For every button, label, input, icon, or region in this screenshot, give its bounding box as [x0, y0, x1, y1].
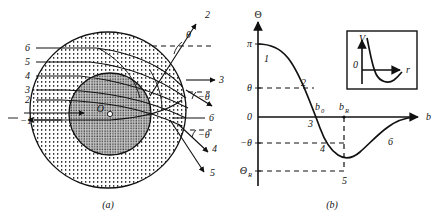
label-angle-minus-theta-upper: −θ — [198, 91, 210, 102]
annotation-bR: b R — [339, 101, 349, 114]
panel-a-caption: (a) — [102, 199, 114, 211]
label-outgoing-4: 4 — [212, 143, 217, 154]
y-tick-theta-R-group: Θ R — [240, 165, 252, 178]
y-tick-theta: θ — [247, 82, 252, 93]
curve-point-label-5: 5 — [342, 175, 347, 186]
y-tick-minus-theta: −θ — [240, 137, 252, 148]
panel-b-deflection-plot: Θ b π θ 0 −θ Θ R b 0 — [222, 0, 445, 219]
label-incoming-2: 2 — [25, 94, 30, 105]
label-incoming-6: 6 — [25, 42, 30, 53]
label-outgoing-5: 5 — [210, 167, 215, 178]
y-tick-pi: π — [247, 38, 253, 49]
scattering-figure: O 6 5 4 3 2 −1 — [0, 0, 445, 219]
label-b0: b — [315, 101, 320, 112]
label-bR: b — [339, 101, 344, 112]
curve-point-label-4: 4 — [320, 143, 325, 154]
curve-point-label-3: 3 — [307, 118, 313, 129]
annotation-b0: b 0 — [315, 101, 325, 114]
angle-arc-minus-theta-lower — [192, 130, 196, 137]
panel-b-svg: Θ b π θ 0 −θ Θ R b 0 — [222, 0, 445, 219]
center-point-marker — [107, 111, 112, 116]
inset-x-axis-title: r — [406, 64, 410, 75]
panel-a-svg: O 6 5 4 3 2 −1 — [0, 0, 222, 219]
x-axis-title: b — [426, 111, 431, 122]
center-label-O: O — [97, 103, 104, 114]
label-angle-minus-theta-lower: −θ — [198, 129, 210, 140]
panel-a-trajectories: O 6 5 4 3 2 −1 — [0, 0, 222, 219]
y-tick-theta-R: Θ — [240, 165, 247, 176]
curve-point-label-6: 6 — [388, 136, 393, 147]
y-axis-title: Θ — [254, 9, 261, 20]
curve-point-label-1: 1 — [264, 53, 269, 64]
y-tick-zero: 0 — [247, 111, 252, 122]
label-angle-theta: θ — [186, 29, 191, 40]
label-b0-subscript: 0 — [321, 107, 325, 114]
panel-b-caption: (b) — [326, 199, 338, 211]
point-marker-bR — [342, 115, 345, 118]
curve-point-label-2: 2 — [301, 77, 306, 88]
inset-origin-label: 0 — [353, 59, 358, 70]
label-outgoing-6: 6 — [209, 112, 214, 123]
label-outgoing-2: 2 — [205, 9, 210, 20]
potential-inset: V r 0 — [347, 31, 417, 89]
label-incoming-minus-1: −1 — [20, 115, 32, 126]
y-tick-theta-R-subscript: R — [247, 171, 252, 178]
label-incoming-4: 4 — [25, 70, 30, 81]
label-incoming-5: 5 — [25, 56, 30, 67]
label-bR-subscript: R — [344, 107, 349, 114]
